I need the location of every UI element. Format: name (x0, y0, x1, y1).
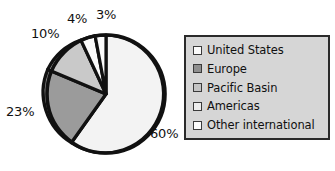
legend-label: Pacific Basin (207, 81, 277, 95)
legend-swatch-icon (193, 102, 202, 111)
legend-item-europe: Europe (193, 60, 323, 78)
pie-label-europe: 23% (6, 104, 34, 119)
legend-swatch-icon (193, 83, 202, 92)
pie-chart-figure: 60% 23% 10% 4% 3% United States Europe P… (0, 0, 335, 171)
pie-label-other-international: 3% (96, 7, 116, 22)
legend-item-united-states: United States (193, 41, 323, 59)
legend-label: Other international (207, 118, 315, 132)
chart-legend: United States Europe Pacific Basin Ameri… (184, 35, 330, 140)
pie-label-americas: 4% (67, 11, 87, 26)
legend-label: United States (207, 43, 284, 57)
legend-label: Europe (207, 62, 247, 76)
legend-item-americas: Americas (193, 97, 323, 115)
legend-swatch-icon (193, 46, 202, 55)
legend-item-pacific-basin: Pacific Basin (193, 79, 323, 97)
legend-label: Americas (207, 99, 260, 113)
legend-swatch-icon (193, 64, 202, 73)
legend-swatch-icon (193, 121, 202, 130)
legend-item-other-international: Other international (193, 116, 323, 134)
pie-label-pacific-basin: 10% (31, 26, 59, 41)
pie-label-united-states: 60% (150, 126, 178, 141)
